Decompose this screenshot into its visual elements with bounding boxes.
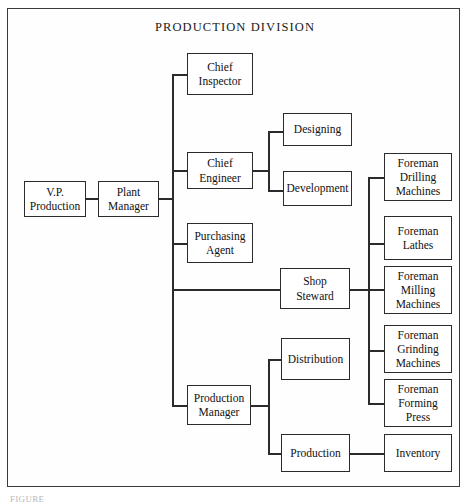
node-development[interactable]: Development <box>283 171 352 206</box>
edge-production-to-inventory <box>350 453 385 455</box>
node-foreman-drilling-machines[interactable]: Foreman Drilling Machines <box>384 153 452 201</box>
edge-to-foreman-lathes <box>368 243 385 245</box>
edge-to-foreman-drilling <box>368 177 385 179</box>
node-purchasing-agent[interactable]: Purchasing Agent <box>187 223 253 263</box>
figure-caption-partial: FIGURE <box>10 494 220 502</box>
node-foreman-milling-machines[interactable]: Foreman Milling Machines <box>384 266 452 314</box>
production-manager-sub-spine <box>268 359 270 454</box>
edge-production-manager-stub <box>250 405 269 407</box>
chart-title: PRODUCTION DIVISION <box>0 20 470 35</box>
edge-vp-to-plant-manager <box>85 198 98 200</box>
node-designing[interactable]: Designing <box>283 113 352 146</box>
edge-shop-steward-stub <box>350 289 369 291</box>
main-spine <box>172 74 174 406</box>
node-foreman-lathes[interactable]: Foreman Lathes <box>384 216 452 260</box>
edge-to-foreman-grinding <box>368 350 385 352</box>
edge-spine-to-chief-inspector <box>172 74 188 76</box>
node-distribution[interactable]: Distribution <box>281 338 350 380</box>
node-chief-engineer[interactable]: Chief Engineer <box>187 152 253 189</box>
node-shop-steward[interactable]: Shop Steward <box>280 268 350 309</box>
edge-spine-to-purchasing-agent <box>172 243 188 245</box>
edge-spine-to-shop-steward <box>172 289 280 291</box>
node-foreman-grinding-machines[interactable]: Foreman Grinding Machines <box>384 325 452 373</box>
org-chart-page: PRODUCTION DIVISION V.P. Production Plan… <box>0 0 470 502</box>
edge-plant-manager-stub <box>158 198 173 200</box>
node-production[interactable]: Production <box>281 434 350 472</box>
node-inventory[interactable]: Inventory <box>384 434 452 472</box>
edge-spine-to-production-manager <box>172 405 188 407</box>
edge-to-distribution <box>268 359 282 361</box>
edge-to-designing <box>268 131 284 133</box>
node-vp-production[interactable]: V.P. Production <box>24 181 86 217</box>
edge-to-foreman-forming <box>368 403 385 405</box>
node-chief-inspector[interactable]: Chief Inspector <box>187 53 253 95</box>
edge-chief-engineer-stub <box>252 170 269 172</box>
node-production-manager[interactable]: Production Manager <box>187 385 251 425</box>
edge-to-production <box>268 453 282 455</box>
node-foreman-forming-press[interactable]: Foreman Forming Press <box>384 379 452 427</box>
node-plant-manager[interactable]: Plant Manager <box>98 181 159 217</box>
edge-to-development <box>268 190 284 192</box>
engineer-sub-spine <box>268 131 270 191</box>
edge-to-foreman-milling <box>368 289 385 291</box>
edge-spine-to-chief-engineer <box>172 170 188 172</box>
